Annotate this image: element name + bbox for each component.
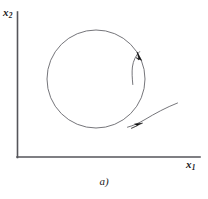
limit-cycle-curve xyxy=(47,30,145,128)
inner-spiral-arrowhead xyxy=(136,52,142,61)
y-axis-label: x2 xyxy=(3,7,12,18)
outer-spiral-trajectory-curve xyxy=(128,103,178,127)
y-axis-label-base: x xyxy=(3,6,9,18)
y-axis-label-subscript: 2 xyxy=(9,11,13,20)
x-axis-label: x1 xyxy=(186,159,195,170)
x-axis-label-base: x xyxy=(186,158,192,170)
x-axis-label-subscript: 1 xyxy=(192,163,196,172)
inner-spiral-trajectory-group xyxy=(132,52,141,85)
axis-group xyxy=(17,12,200,158)
limit-cycle-group xyxy=(47,30,145,128)
phase-portrait-plot xyxy=(0,0,208,199)
phase-portrait-figure: x2 x1 a) xyxy=(0,0,208,199)
figure-caption: a) xyxy=(0,176,208,187)
outer-spiral-trajectory-group xyxy=(128,103,178,128)
